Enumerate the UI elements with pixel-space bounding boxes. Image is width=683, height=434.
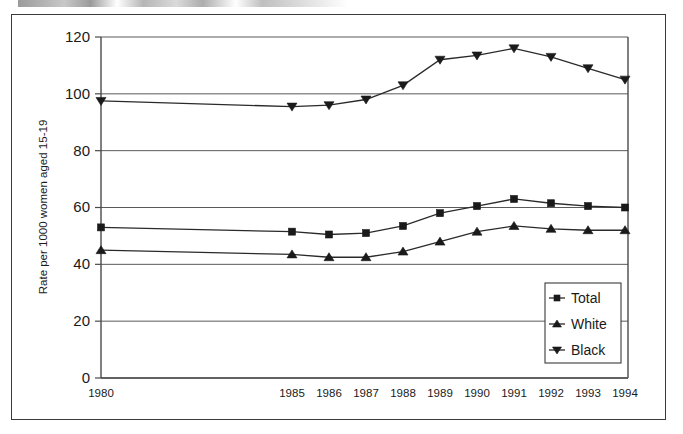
series-line-total — [101, 199, 625, 235]
y-tick-label-80: 80 — [73, 142, 90, 159]
y-tick-label-0: 0 — [82, 369, 90, 386]
data-point-black-1988 — [398, 82, 408, 90]
data-point-total-1987 — [363, 230, 370, 237]
y-axis-title: Rate per 1000 women aged 15-19 — [37, 120, 49, 295]
y-tick-label-20: 20 — [73, 312, 90, 329]
data-point-black-1989 — [435, 56, 445, 64]
data-point-total-1988 — [400, 222, 407, 229]
data-series — [96, 45, 630, 261]
data-point-white-1991 — [509, 221, 519, 229]
data-point-total-1994 — [622, 204, 629, 211]
x-tick-label-1990: 1990 — [464, 387, 490, 399]
data-point-total-1990 — [474, 203, 481, 210]
legend-label-white: White — [571, 316, 607, 332]
x-tick-label-1991: 1991 — [501, 387, 527, 399]
x-tick-label-1987: 1987 — [353, 387, 379, 399]
data-point-total-1993 — [585, 203, 592, 210]
data-point-total-1992 — [548, 200, 555, 207]
x-tick-label-1980: 1980 — [88, 387, 114, 399]
data-point-total-1989 — [437, 210, 444, 217]
x-tick-label-1989: 1989 — [427, 387, 453, 399]
y-tick-label-120: 120 — [65, 28, 90, 45]
series-white — [96, 221, 630, 260]
data-point-total-1980 — [98, 224, 105, 231]
chart-legend: TotalWhiteBlack — [545, 283, 621, 363]
legend-label-total: Total — [571, 290, 601, 306]
x-tick-label-1993: 1993 — [575, 387, 601, 399]
x-tick-label-1986: 1986 — [316, 387, 342, 399]
x-tick-label-1992: 1992 — [538, 387, 564, 399]
y-tick-label-60: 60 — [73, 198, 90, 215]
series-black — [96, 45, 630, 111]
data-point-total-1986 — [326, 231, 333, 238]
y-tick-labels: 020406080100120 — [65, 28, 101, 386]
data-point-total-1985 — [289, 228, 296, 235]
data-point-total-1991 — [511, 195, 518, 202]
line-chart: 020406080100120 198019851986198719881989… — [0, 0, 683, 434]
y-tick-label-100: 100 — [65, 85, 90, 102]
x-tick-label-1994: 1994 — [612, 387, 638, 399]
y-tick-label-40: 40 — [73, 255, 90, 272]
x-tick-label-1985: 1985 — [279, 387, 305, 399]
legend-label-black: Black — [571, 342, 606, 358]
square-marker — [554, 295, 560, 301]
x-tick-label-1988: 1988 — [390, 387, 416, 399]
x-tick-labels: 1980198519861987198819891990199119921993… — [88, 387, 638, 399]
